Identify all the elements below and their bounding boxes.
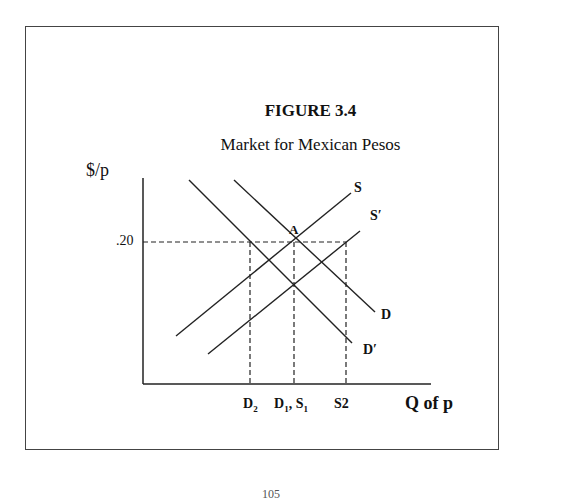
x-tick-d2: D2 xyxy=(243,396,258,414)
x-axis-label: Q of p xyxy=(405,393,453,414)
y-axis-label: $/p xyxy=(86,160,109,181)
x-tick-d1-s1: D1, S1 xyxy=(274,396,308,414)
label-s: S xyxy=(354,180,362,196)
equilibrium-label-a: A xyxy=(289,222,298,238)
y-tick-label: .20 xyxy=(116,233,134,249)
label-d: D xyxy=(381,307,391,323)
supply-curve-s-prime xyxy=(208,231,360,354)
label-d-prime: D′ xyxy=(363,342,377,358)
demand-curve-d-prime xyxy=(189,180,352,343)
x-tick-s2: S2 xyxy=(334,396,349,412)
page-number: 105 xyxy=(262,487,280,502)
label-s-prime: S′ xyxy=(370,208,382,224)
